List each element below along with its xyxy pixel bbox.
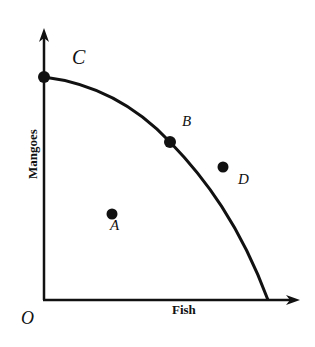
ppf-diagram (0, 0, 315, 347)
ppf-curve (44, 77, 268, 300)
origin-label: O (21, 308, 34, 329)
y-axis-label: Mangoes (25, 123, 41, 185)
point-c (38, 71, 50, 83)
x-axis-label: Fish (172, 302, 196, 318)
label-c: C (72, 46, 85, 69)
label-d: D (238, 171, 249, 188)
point-d (218, 162, 229, 173)
label-b: B (182, 113, 191, 130)
label-a: A (110, 217, 119, 234)
point-b (164, 136, 176, 148)
